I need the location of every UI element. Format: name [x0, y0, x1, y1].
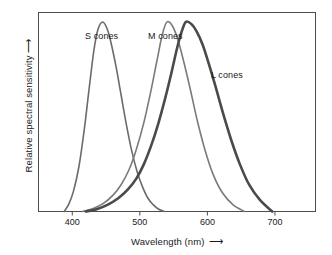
cone-spectral-sensitivity-chart: Relative spectral sensitivity ⟶ 40050060…: [0, 0, 332, 255]
y-axis-label-text: Relative spectral sensitivity: [23, 55, 34, 172]
x-axis-tick-label: 400: [52, 217, 92, 227]
curve-m-cones: [82, 21, 244, 211]
x-axis-tick-label: 500: [120, 217, 160, 227]
y-axis-label-group: Relative spectral sensitivity ⟶: [0, 0, 36, 222]
x-axis-label: Wavelength (nm): [131, 236, 204, 247]
x-axis-label-group: Wavelength (nm) ⟶: [38, 231, 316, 249]
curve-label-l-cones: L cones: [211, 70, 243, 80]
plot-frame: [39, 13, 316, 212]
x-axis-tick-label: 700: [255, 217, 295, 227]
y-axis-arrow-icon: ⟶: [23, 39, 34, 53]
cone-curves: [64, 21, 272, 211]
curve-l-cones: [86, 22, 272, 212]
curve-label-m-cones: M cones: [148, 31, 183, 41]
curve-label-s-cones: S cones: [85, 31, 118, 41]
y-axis-label: Relative spectral sensitivity ⟶: [23, 6, 34, 206]
x-axis-arrow-icon: ⟶: [209, 236, 223, 247]
x-axis-tick-label: 600: [187, 217, 227, 227]
curve-s-cones: [64, 22, 164, 212]
